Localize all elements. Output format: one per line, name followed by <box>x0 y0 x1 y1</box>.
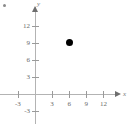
y-axis-tick <box>32 43 39 44</box>
x-axis-tick-label: 6 <box>60 100 78 108</box>
x-axis-tick-label: 9 <box>77 100 95 108</box>
x-axis-tick <box>103 91 104 98</box>
x-axis-tick <box>18 91 19 98</box>
x-axis-tick <box>52 91 53 98</box>
y-axis-tick <box>32 60 39 61</box>
corner-artifact-dot <box>3 4 6 7</box>
y-axis-label: y <box>37 0 40 8</box>
x-axis-arrow-icon <box>115 91 121 97</box>
x-axis-tick <box>86 91 87 98</box>
x-axis-tick-label: 3 <box>43 100 61 108</box>
y-axis-tick <box>32 77 39 78</box>
y-axis-line <box>35 7 36 124</box>
x-axis-tick <box>69 91 70 98</box>
y-axis-tick-label: 12 <box>14 22 30 30</box>
y-axis-tick <box>32 111 39 112</box>
y-axis-tick <box>32 26 39 27</box>
y-axis-tick-label: 9 <box>14 39 30 47</box>
plotted-point <box>66 39 73 46</box>
y-axis-tick-label: 3 <box>14 73 30 81</box>
coordinate-plane-figure: x y -336912 -336912 <box>0 0 131 125</box>
x-axis-label: x <box>123 90 126 98</box>
y-axis-tick-label: 6 <box>14 56 30 64</box>
x-axis-tick-label: 12 <box>94 100 112 108</box>
y-axis-tick-label: -3 <box>14 107 30 115</box>
